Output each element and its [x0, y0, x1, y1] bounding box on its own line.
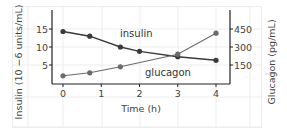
glucagon-series-label: glucagon [145, 67, 191, 78]
x-tick-label: 1 [98, 88, 104, 99]
y-tick-label-right: 150 [234, 60, 252, 71]
insulin-series-label: insulin [120, 28, 153, 39]
glucagon-data-point [87, 70, 92, 75]
insulin-data-point [60, 29, 65, 34]
insulin-data-point [118, 44, 123, 49]
x-tick-label: 0 [60, 88, 66, 99]
glucagon-data-point [60, 73, 65, 78]
glucagon-data-point [213, 31, 218, 36]
x-axis-title: Time (h) [120, 103, 161, 114]
x-tick-label: 2 [136, 88, 142, 99]
glucagon-data-point [118, 64, 123, 69]
y-axis-title-right: Glucagon (pg/mL) [266, 19, 277, 104]
y-tick-label-left: 10 [36, 42, 48, 53]
x-tick-label: 3 [175, 88, 181, 99]
x-tick-label: 4 [213, 88, 219, 99]
y-tick-label-left: 15 [36, 24, 48, 35]
y-tick-label-right: 300 [234, 42, 252, 53]
y-tick-label-left: 5 [42, 60, 48, 71]
line-chart: 0123451015150300450 Time (h) Insulin (10… [0, 0, 287, 134]
insulin-data-point [137, 49, 142, 54]
glucagon-data-point [175, 52, 180, 57]
insulin-data-point [87, 34, 92, 39]
insulin-data-point [213, 58, 218, 63]
y-tick-label-right: 450 [234, 24, 252, 35]
y-axis-title-left: Insulin (10 −6 units/mL) [13, 5, 24, 120]
